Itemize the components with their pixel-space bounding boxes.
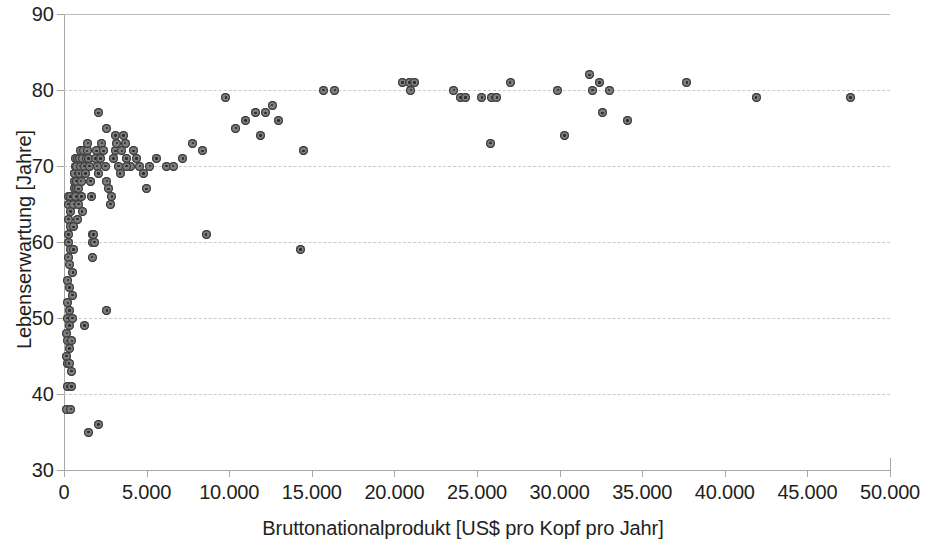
x-tick-label-20000: 20.000 — [364, 481, 424, 504]
y-tick-40 — [57, 394, 64, 395]
x-tick-label-15000: 15.000 — [282, 481, 342, 504]
data-point — [68, 314, 77, 323]
data-point — [69, 245, 78, 254]
data-point — [506, 78, 515, 87]
data-point — [846, 93, 855, 102]
data-point — [319, 86, 328, 95]
x-tick-35000 — [642, 470, 643, 477]
y-tick-70 — [57, 166, 64, 167]
data-point — [486, 139, 495, 148]
y-tick-90 — [57, 14, 64, 15]
gridline-y-90 — [64, 14, 890, 15]
data-point — [122, 162, 131, 171]
y-tick-label-30: 30 — [14, 459, 54, 482]
data-point — [68, 291, 77, 300]
data-point — [188, 139, 197, 148]
y-tick-80 — [57, 90, 64, 91]
data-point — [65, 344, 74, 353]
data-point — [101, 162, 110, 171]
data-point — [202, 230, 211, 239]
x-tick-label-30000: 30.000 — [530, 481, 590, 504]
data-point — [73, 215, 82, 224]
x-tick-20000 — [394, 470, 395, 477]
data-point — [461, 93, 470, 102]
data-point — [111, 131, 120, 140]
data-point — [88, 253, 97, 262]
x-tick-10000 — [229, 470, 230, 477]
data-point — [595, 78, 604, 87]
gridline-y-40 — [64, 394, 890, 395]
x-tick-label-25000: 25.000 — [447, 481, 507, 504]
x-tick-label-0: 0 — [59, 481, 70, 504]
data-point — [152, 154, 161, 163]
x-tick-5000 — [147, 470, 148, 477]
data-point — [121, 139, 130, 148]
y-tick-label-90: 90 — [14, 3, 54, 26]
x-tick-30000 — [560, 470, 561, 477]
x-tick-40000 — [725, 470, 726, 477]
data-point — [553, 86, 562, 95]
data-point — [605, 86, 614, 95]
data-point — [231, 124, 240, 133]
x-tick-50000 — [890, 470, 891, 477]
x-tick-label-5000: 5.000 — [122, 481, 171, 504]
x-tick-label-10000: 10.000 — [199, 481, 259, 504]
data-point — [87, 192, 96, 201]
data-point — [90, 238, 99, 247]
data-point — [296, 245, 305, 254]
data-point — [752, 93, 761, 102]
x-axis-title: Bruttonationalprodukt [US$ pro Kopf pro … — [0, 517, 926, 540]
data-point — [67, 367, 76, 376]
y-tick-30 — [57, 470, 64, 471]
data-point — [84, 428, 93, 437]
data-point — [78, 207, 87, 216]
data-point — [406, 86, 415, 95]
gridline-y-60 — [64, 242, 890, 243]
data-point — [86, 177, 95, 186]
gridline-y-70 — [64, 166, 890, 167]
gridline-y-50 — [64, 318, 890, 319]
x-tick-0 — [64, 470, 65, 477]
gridline-y-80 — [64, 90, 890, 91]
data-point — [116, 169, 125, 178]
data-point — [77, 177, 86, 186]
data-point — [623, 116, 632, 125]
x-tick-45000 — [807, 470, 808, 477]
x-tick-label-50000: 50.000 — [860, 481, 920, 504]
y-axis-title: Lebenserwartung [Jahre] — [13, 50, 36, 430]
data-point — [330, 86, 339, 95]
x-axis-right-end-cap — [890, 458, 891, 470]
x-tick-label-40000: 40.000 — [695, 481, 755, 504]
data-point — [268, 101, 277, 110]
x-tick-label-45000: 45.000 — [777, 481, 837, 504]
data-point — [67, 382, 76, 391]
data-point — [169, 162, 178, 171]
data-point — [64, 230, 73, 239]
data-point — [588, 86, 597, 95]
data-point — [77, 192, 86, 201]
x-tick-15000 — [312, 470, 313, 477]
x-tick-25000 — [477, 470, 478, 477]
scatter-chart-figure: 30405060708090 05.00010.00015.00020.0002… — [0, 0, 926, 549]
data-point — [145, 162, 154, 171]
x-tick-label-35000: 35.000 — [612, 481, 672, 504]
data-point — [102, 124, 111, 133]
y-tick-60 — [57, 242, 64, 243]
